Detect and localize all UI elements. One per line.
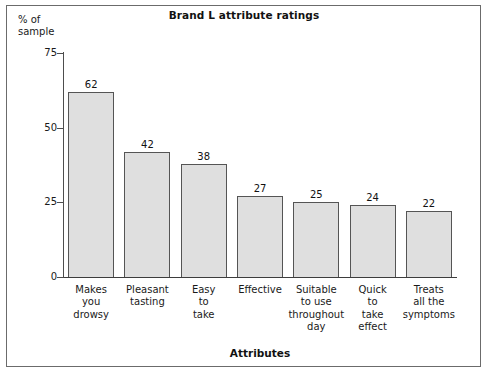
x-axis-label: Attributes (63, 347, 457, 359)
bar (124, 152, 170, 277)
y-axis-line (63, 52, 64, 278)
y-tick: 25 (14, 202, 57, 203)
bar (350, 205, 396, 277)
y-tick: 75 (14, 53, 57, 54)
x-tick-label: Quick to take effect (344, 284, 400, 334)
plot-area: 0255075 62423827252422 Makes you drowsyP… (0, 0, 488, 374)
y-tick-mark (57, 128, 64, 129)
x-tick-label: Easy to take (176, 284, 232, 321)
y-tick-mark (57, 53, 64, 54)
bar (237, 196, 283, 277)
y-tick-mark (57, 277, 64, 278)
y-tick-label: 50 (19, 122, 57, 133)
bar-value-label: 42 (127, 139, 167, 150)
y-tick: 50 (14, 128, 57, 129)
bar-value-label: 22 (409, 198, 449, 209)
bar (68, 92, 114, 277)
bar-value-label: 24 (353, 192, 393, 203)
x-tick-label: Treats all the symptoms (401, 284, 457, 321)
y-tick-label: 25 (19, 196, 57, 207)
x-tick-label: Pleasant tasting (119, 284, 175, 309)
x-tick-label: Effective (232, 284, 288, 296)
bar (293, 202, 339, 277)
y-tick-label: 75 (19, 47, 57, 58)
y-tick-mark (57, 202, 64, 203)
bar (181, 164, 227, 277)
bar-value-label: 62 (71, 79, 111, 90)
x-tick-label: Makes you drowsy (63, 284, 119, 321)
bar-value-label: 38 (184, 151, 224, 162)
bar-value-label: 25 (296, 189, 336, 200)
bar-value-label: 27 (240, 183, 280, 194)
bar (406, 211, 452, 277)
x-tick-label: Suitable to use throughout day (288, 284, 344, 334)
chart-figure: Brand L attribute ratings % of sample 02… (0, 0, 488, 374)
y-tick: 0 (14, 277, 57, 278)
x-axis-line (63, 277, 457, 278)
y-tick-label: 0 (19, 271, 57, 282)
